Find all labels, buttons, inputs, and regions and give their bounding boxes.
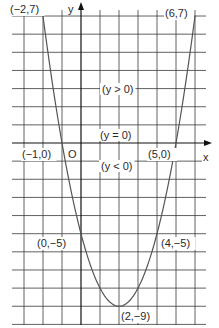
svg-text:(0,−5): (0,−5)	[37, 237, 66, 249]
svg-text:(5,0): (5,0)	[148, 148, 171, 160]
svg-text:(2,−9): (2,−9)	[121, 310, 150, 322]
point-label: (2,−9)	[120, 310, 156, 323]
annotation-y-positive: (y > 0)	[102, 83, 133, 95]
point-label: (−2,7)	[9, 3, 45, 16]
svg-text:(−2,7): (−2,7)	[10, 3, 39, 15]
y-axis-label: y	[68, 3, 74, 15]
origin-label: O	[68, 148, 77, 160]
point-label: (5,0)	[147, 148, 177, 161]
svg-text:(6,7): (6,7)	[165, 7, 188, 19]
svg-text:(−1,0): (−1,0)	[22, 148, 51, 160]
svg-text:(4,−5): (4,−5)	[161, 237, 190, 249]
point-label: (6,7)	[164, 7, 194, 20]
annotation-y-negative: (y < 0)	[101, 160, 132, 172]
annotation-y-zero: (y = 0)	[100, 129, 131, 141]
point-label: (−1,0)	[21, 148, 57, 161]
point-label: (0,−5)	[36, 237, 72, 250]
parabola-graph: (−2,7)(6,7)(−1,0)(5,0)(0,−5)(4,−5)(2,−9)…	[0, 0, 219, 328]
point-label: (4,−5)	[160, 237, 196, 250]
x-axis-label: x	[203, 151, 209, 163]
